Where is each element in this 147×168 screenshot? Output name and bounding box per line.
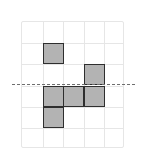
shaded-cell (63, 86, 84, 107)
grid-line-horizontal (22, 64, 123, 65)
grid-line-horizontal (22, 43, 123, 44)
shaded-cell (43, 43, 64, 64)
shaded-cell (43, 86, 64, 107)
dashed-reflection-line (12, 84, 135, 85)
shaded-cell (43, 107, 64, 128)
shaded-cell (84, 64, 105, 85)
grid-line-horizontal (22, 107, 123, 108)
grid-line-horizontal (22, 128, 123, 129)
shaded-cell (84, 86, 105, 107)
